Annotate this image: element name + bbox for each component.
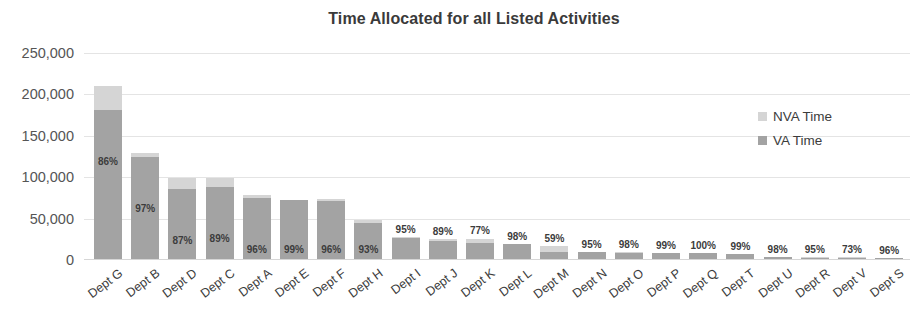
y-axis-tick-label: 100,000: [22, 169, 74, 185]
bar-data-label: 89%: [433, 226, 453, 237]
x-axis-tick-text: Dept G: [85, 266, 125, 301]
y-axis-tick-label: 150,000: [22, 128, 74, 144]
y-axis: 250,000200,000150,000100,00050,0000: [0, 53, 74, 260]
y-axis-tick-label: 50,000: [30, 211, 74, 227]
chart-title: Time Allocated for all Listed Activities: [0, 10, 918, 28]
legend-item[interactable]: NVA Time: [758, 104, 878, 128]
bar-data-label: 95%: [396, 224, 416, 235]
bar-data-label: 98%: [507, 231, 527, 242]
legend-swatch-icon: [758, 112, 767, 121]
bar-data-label: 89%: [210, 233, 230, 244]
bar-data-label: 86%: [98, 156, 118, 167]
gridline: [84, 53, 910, 54]
y-axis-tick-label: 0: [66, 252, 74, 268]
bar-data-label: 77%: [470, 225, 490, 236]
chart-legend: NVA TimeVA Time: [758, 104, 878, 152]
y-axis-tick-label: 200,000: [22, 86, 74, 102]
plot-area: 86%97%87%89%96%99%96%93%95%89%77%98%59%9…: [84, 53, 910, 260]
chart-container: Time Allocated for all Listed Activities…: [0, 0, 918, 336]
bar-data-label: 97%: [135, 203, 155, 214]
bar-segment-nva-time[interactable]: [94, 86, 122, 110]
legend-swatch-icon: [758, 136, 767, 145]
legend-item-label: VA Time: [773, 133, 822, 148]
y-axis-tick-label: 250,000: [22, 45, 74, 61]
bar-data-label: 59%: [544, 233, 564, 244]
legend-item-label: NVA Time: [773, 109, 832, 124]
bar-segment-nva-time[interactable]: [206, 178, 234, 187]
bar-segment-nva-time[interactable]: [168, 178, 196, 189]
legend-item[interactable]: VA Time: [758, 128, 878, 152]
gridline: [84, 94, 910, 95]
bar-segment-va-time[interactable]: [94, 110, 122, 260]
bar-column[interactable]: [94, 86, 122, 260]
x-axis: Dept GDept BDept DDept CDept ADept EDept…: [84, 262, 910, 336]
